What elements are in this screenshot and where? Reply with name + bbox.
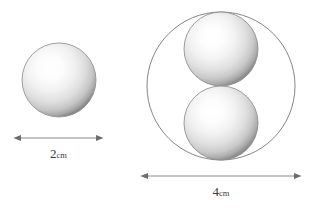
single-sphere xyxy=(22,43,96,117)
right-dimension-label: 4cm xyxy=(213,183,230,199)
lower-sphere xyxy=(184,86,258,160)
geometry-diagram-canvas xyxy=(0,0,313,213)
upper-sphere xyxy=(184,12,258,86)
right-dimension-unit: cm xyxy=(219,188,229,198)
left-dimension-label: 2cm xyxy=(50,145,67,161)
left-dimension-unit: cm xyxy=(57,150,67,160)
